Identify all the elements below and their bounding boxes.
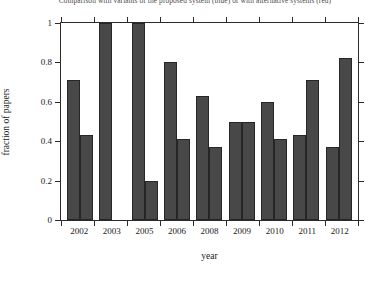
bar-series-container — [61, 23, 358, 220]
bar — [242, 122, 255, 221]
bar — [261, 102, 274, 220]
bar-group — [258, 23, 290, 220]
bar — [209, 147, 222, 220]
y-tick-label: 0.8 — [41, 57, 52, 67]
bar — [293, 135, 306, 220]
x-tick-label: 2009 — [226, 226, 259, 240]
y-tick-mark-right — [358, 181, 364, 182]
x-tick-label: 2003 — [96, 226, 129, 240]
bar — [145, 181, 158, 220]
bar — [80, 135, 93, 220]
y-tick-mark-right — [358, 102, 364, 103]
bar-group — [64, 23, 96, 220]
y-tick-label: 0 — [48, 215, 53, 225]
x-tick-label: 2010 — [258, 226, 291, 240]
bar-group — [290, 23, 322, 220]
y-tick-label: 0.2 — [41, 176, 52, 186]
x-tick-label: 2011 — [291, 226, 324, 240]
y-tick-mark-right — [358, 23, 364, 24]
bar-chart-figure: fraction of papers 00.20.40.60.81 200220… — [0, 8, 390, 281]
bar — [196, 96, 209, 220]
y-tick-mark-right — [358, 141, 364, 142]
y-tick-label: 0.4 — [41, 136, 52, 146]
bar-group — [96, 23, 128, 220]
y-tick-label: 0.6 — [41, 97, 52, 107]
y-axis-title: fraction of papers — [1, 89, 11, 156]
bar-group — [129, 23, 161, 220]
x-axis-tick-labels: 200220032005200620082009201020112012 — [60, 226, 359, 240]
bar — [99, 23, 112, 220]
bar-group — [323, 23, 355, 220]
x-axis-title: year — [60, 251, 359, 261]
bar-group — [193, 23, 225, 220]
plot-area: 00.20.40.60.81 — [60, 22, 359, 221]
x-tick-label: 2005 — [128, 226, 161, 240]
x-tick-label: 2008 — [193, 226, 226, 240]
x-tick-label: 2006 — [161, 226, 194, 240]
bar — [67, 80, 80, 220]
figure-caption: Comparison with variants of the proposed… — [0, 0, 390, 6]
bar — [132, 23, 145, 220]
bar — [306, 80, 319, 220]
bar — [164, 62, 177, 220]
x-tick-mark-top — [358, 17, 359, 23]
bar-group — [226, 23, 258, 220]
bar-group — [161, 23, 193, 220]
y-tick-label: 1 — [48, 18, 53, 28]
x-tick-label: 2002 — [63, 226, 96, 240]
bar — [229, 122, 242, 221]
bar — [326, 147, 339, 220]
x-tick-label: 2012 — [324, 226, 357, 240]
y-tick-mark-right — [358, 62, 364, 63]
bar — [177, 139, 190, 220]
bar — [339, 58, 352, 220]
bar — [274, 139, 287, 220]
